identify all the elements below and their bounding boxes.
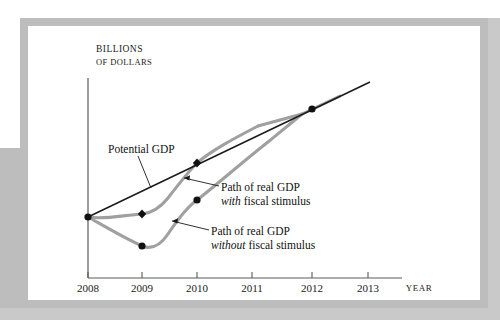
x-tick-label-2009: 2009 <box>131 282 153 294</box>
annotation-without-stimulus: Path of real GDP without fiscal stimulus <box>211 224 315 252</box>
annotation-without-stimulus-line1: Path of real GDP <box>211 224 315 238</box>
x-axis-ticks <box>88 272 368 278</box>
annotation-with-stimulus: Path of real GDP with fiscal stimulus <box>221 180 310 208</box>
series-gray-converged-tail <box>258 96 340 126</box>
marker-2009-trough <box>138 242 145 249</box>
annotation-with-emphasis: with <box>221 195 241 207</box>
figure-root: Billions of dollars 2008 2009 2010 2011 … <box>0 0 500 320</box>
x-tick-label-2010: 2010 <box>186 282 208 294</box>
x-tick-label-2013: 2013 <box>357 282 379 294</box>
marker-2009-with-core <box>140 212 144 216</box>
annotation-without-emphasis: without <box>211 239 246 251</box>
chart-canvas <box>0 0 500 320</box>
annotation-without-stimulus-line2: without fiscal stimulus <box>211 238 315 252</box>
marker-2010-without <box>193 196 200 203</box>
annotation-with-stimulus-line1: Path of real GDP <box>221 180 310 194</box>
leader-potential-gdp <box>138 156 151 188</box>
leader-without-stimulus <box>172 221 209 230</box>
annotation-potential-gdp: Potential GDP <box>108 142 175 156</box>
x-axis-title: Year <box>406 283 433 293</box>
x-tick-label-2012: 2012 <box>301 282 323 294</box>
marker-2012-potential <box>308 105 315 112</box>
annotation-without-rest: fiscal stimulus <box>246 239 316 251</box>
annotation-with-stimulus-line2: with fiscal stimulus <box>221 194 310 208</box>
y-axis-title-line2: of dollars <box>96 57 152 67</box>
x-tick-label-2011: 2011 <box>241 282 263 294</box>
y-axis-title-line1: Billions <box>96 44 143 54</box>
x-tick-label-2008: 2008 <box>77 282 99 294</box>
marker-2010-with-core <box>195 161 199 165</box>
annotation-with-rest: fiscal stimulus <box>241 195 311 207</box>
marker-2008-origin <box>84 213 91 220</box>
